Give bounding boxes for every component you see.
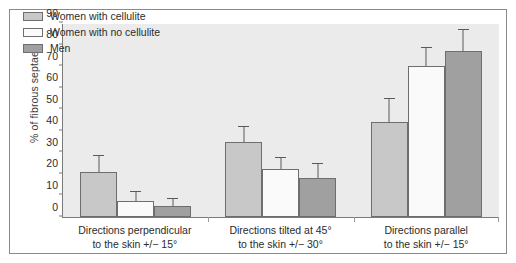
legend-swatch [23,44,43,53]
x-axis-label: Directions parallelto the skin +/− 15° [353,224,499,251]
error-bar-cap [167,198,178,199]
y-tick-label: 60 [46,72,63,83]
bar-slot [262,24,299,217]
legend-label: Men [50,43,70,54]
x-axis-label: Directions perpendicularto the skin +/− … [62,224,208,251]
error-bar-cap [312,163,323,164]
error-bar [243,126,244,141]
error-bar-cap [238,126,249,127]
bar-slot [371,24,408,217]
bar-group [354,24,499,217]
bar-group [208,24,353,217]
legend-swatch [23,12,43,21]
legend-item[interactable]: Men [23,41,160,55]
legend-item[interactable]: Women with cellulite [23,9,160,23]
error-bar [98,155,99,172]
bar-women-with-cellulite[interactable] [225,142,262,217]
bar-women-with-no-cellulite[interactable] [262,169,299,218]
error-bar-cap [93,155,104,156]
bar-women-with-cellulite[interactable] [371,122,408,217]
error-bar-cap [275,157,286,158]
error-bar-cap [384,98,395,99]
error-bar [280,157,281,169]
x-axis-label-line: to the skin +/− 30° [208,238,354,252]
y-tick-label: 10 [46,180,63,191]
bar-women-with-no-cellulite[interactable] [408,66,445,217]
bar-men[interactable] [299,178,336,217]
error-bar-cap [458,29,469,30]
y-tick-label: 0 [52,201,63,212]
figure-container: % of fibrous septae 0102030405060708090 … [0,0,516,263]
error-bar [317,163,318,178]
x-group-separator-tick [208,217,209,222]
y-tick-label: 30 [46,137,63,148]
legend-swatch [23,28,43,37]
error-bar [463,29,464,51]
bar-women-with-cellulite[interactable] [80,172,117,217]
x-group-separator-tick [498,217,499,222]
y-tick-label: 50 [46,93,63,104]
error-bar [426,47,427,66]
x-axis-label-line: Directions perpendicular [62,224,208,238]
legend-label: Women with no cellulite [50,27,160,38]
x-axis-labels: Directions perpendicularto the skin +/− … [62,224,499,251]
error-bar [135,191,136,201]
error-bar [389,98,390,122]
x-group-separator-tick [354,217,355,222]
bar-women-with-no-cellulite[interactable] [117,201,154,217]
chart-legend: Women with celluliteWomen with no cellul… [23,9,160,55]
bar-men[interactable] [445,51,482,217]
x-axis-label-line: Directions tilted at 45° [208,224,354,238]
y-tick-label: 40 [46,115,63,126]
bar-slot [299,24,336,217]
x-axis-label-line: to the skin +/− 15° [353,238,499,252]
error-bar-cap [130,191,141,192]
error-bar [172,198,173,207]
bar-slot [408,24,445,217]
bar-slot [445,24,482,217]
legend-label: Women with cellulite [50,11,146,22]
x-axis-label-line: Directions parallel [353,224,499,238]
x-axis-label-line: to the skin +/− 15° [62,238,208,252]
y-tick-label: 20 [46,158,63,169]
x-axis-label: Directions tilted at 45°to the skin +/− … [208,224,354,251]
bar-slot [225,24,262,217]
legend-item[interactable]: Women with no cellulite [23,25,160,39]
error-bar-cap [421,47,432,48]
bar-men[interactable] [154,206,191,217]
